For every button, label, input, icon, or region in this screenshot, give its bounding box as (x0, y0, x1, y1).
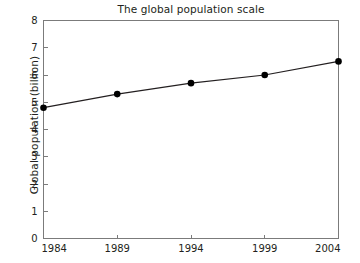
x-axis-tick-label: 1984 (42, 243, 67, 254)
data-point-marker (335, 58, 342, 65)
x-axis-tick-label: 1994 (178, 243, 203, 254)
x-axis-tick-label: 1989 (105, 243, 130, 254)
data-point-marker (40, 104, 47, 111)
axis-frame (44, 21, 339, 239)
y-axis-tick-label: 4 (31, 124, 37, 135)
plot-frame (44, 21, 339, 239)
y-axis-tick-label: 5 (31, 97, 37, 108)
y-axis-tick-label: 0 (31, 233, 37, 244)
data-point-marker (114, 91, 121, 98)
x-axis-tick-label: 1999 (252, 243, 277, 254)
y-axis-tick-label: 6 (31, 70, 37, 81)
y-axis-tick-label: 1 (31, 206, 37, 217)
y-axis-tick-label: 8 (31, 15, 37, 26)
y-axis-tick-label: 2 (31, 179, 37, 190)
data-marker-group (40, 58, 342, 111)
data-point-marker (188, 80, 195, 87)
chart-figure: The global population scale Global popul… (0, 0, 360, 263)
y-axis-tick-label: 7 (31, 42, 37, 53)
y-axis-tick-group: 012345678 (31, 15, 47, 244)
x-axis-tick-label: 2004 (315, 243, 340, 254)
y-axis-tick-label: 3 (31, 151, 37, 162)
x-axis-tick-group: 19841989199419992004 (42, 235, 341, 254)
data-point-marker (261, 72, 268, 79)
plot-area: 012345678 19841989199419992004 (0, 0, 360, 263)
